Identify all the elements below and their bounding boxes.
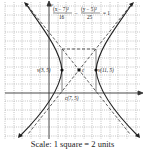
center-label: c(7, 5) [65,95,79,102]
center-marker-label: c [82,67,85,73]
eq-denominator-1: 16 [59,14,65,20]
scale-caption: Scale: 1 square = 2 units [0,139,145,149]
hyperbola-graph: y (x − 7)² 16 − (y − 5)² 25 = 1 v(3, 5) … [0,0,145,140]
eq-denominator-2: 25 [87,14,93,20]
eq-equals: = 1 [103,10,110,16]
x-axis-arrow-icon [138,91,143,95]
eq-numerator-1: (x − 7)² [53,6,69,13]
vertex-right-label: v(11, 5) [98,67,114,74]
eq-minus: − [75,10,78,16]
equation: (x − 7)² 16 − (y − 5)² 25 = 1 [53,6,110,20]
vertex-left-label: v(3, 5) [37,67,51,74]
eq-numerator-2: (y − 5)² [81,6,97,13]
grid [5,2,140,139]
vertex-left-dot [60,68,63,71]
center-dot [78,69,81,72]
